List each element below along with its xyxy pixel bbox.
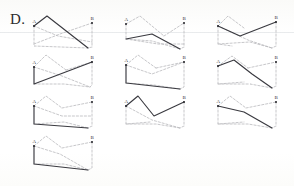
- panel-svg-4: AB: [30, 54, 98, 94]
- diagram-panel: AB: [122, 14, 190, 54]
- node-label-a: A: [125, 17, 129, 22]
- node-marker-a: [125, 105, 127, 107]
- node-marker-b: [275, 61, 277, 63]
- panel-svg-7: AB: [30, 94, 98, 134]
- dashed-route-2: [248, 62, 276, 68]
- node-marker-b: [91, 22, 93, 24]
- node-label-b: B: [275, 15, 279, 20]
- dashed-route-3: [88, 23, 92, 48]
- dashed-route-4: [218, 124, 272, 128]
- dashed-route-2: [246, 102, 276, 108]
- node-marker-a: [33, 145, 35, 147]
- node-label-b: B: [183, 55, 187, 60]
- dashed-route-4: [272, 22, 276, 48]
- node-label-a: A: [125, 58, 129, 63]
- solid-route: [218, 106, 272, 128]
- dashed-route-5: [90, 62, 92, 87]
- node-label-b: B: [183, 95, 187, 100]
- dashed-route-1: [218, 96, 246, 108]
- node-marker-b: [183, 61, 185, 63]
- dashed-route-1: [218, 16, 244, 28]
- solid-route: [34, 62, 92, 84]
- panel-svg-5: AB: [122, 54, 190, 94]
- dashed-route-3: [164, 23, 184, 36]
- diagram-panel: AB: [30, 54, 98, 94]
- solid-route: [34, 146, 88, 170]
- diagram-panel: AB: [214, 14, 282, 54]
- diagram-panel: AB: [122, 94, 190, 134]
- panel-svg-3: AB: [214, 14, 282, 54]
- dashed-route-1: [34, 136, 62, 148]
- node-label-b: B: [183, 16, 187, 21]
- node-label-a: A: [33, 60, 37, 65]
- diagram-panel: AB: [214, 54, 282, 94]
- node-label-a: A: [217, 59, 221, 64]
- dashed-route-2: [62, 102, 92, 108]
- solid-route: [126, 34, 180, 49]
- panel-svg-10: AB: [30, 134, 98, 174]
- node-marker-a: [217, 105, 219, 107]
- node-label-a: A: [125, 99, 129, 104]
- dashed-route-3: [218, 66, 244, 84]
- dashed-route-3: [34, 146, 88, 170]
- dashed-route-1: [126, 55, 156, 68]
- node-marker-a: [125, 23, 127, 25]
- node-label-b: B: [91, 16, 95, 21]
- diagram-panel: AB: [30, 134, 98, 174]
- dashed-route-5: [180, 23, 184, 49]
- dashed-route-4: [180, 102, 184, 128]
- node-label-b: B: [91, 135, 95, 140]
- dashed-route-1: [126, 106, 150, 124]
- node-label-a: A: [33, 139, 37, 144]
- node-marker-b: [183, 101, 185, 103]
- node-marker-a: [125, 64, 127, 66]
- diagram-panel: AB: [30, 14, 98, 54]
- dashed-route-4: [34, 84, 90, 87]
- dashed-route-1: [218, 56, 248, 68]
- node-marker-a: [217, 65, 219, 67]
- solid-route: [218, 22, 276, 36]
- dashed-route-4: [218, 84, 272, 88]
- dashed-route-1: [34, 96, 62, 108]
- panel-svg-6: AB: [214, 54, 282, 94]
- panel-svg-8: AB: [122, 94, 190, 134]
- dashed-route-1: [126, 16, 164, 36]
- dashed-route-5: [272, 62, 276, 88]
- node-marker-a: [33, 105, 35, 107]
- figure-label: D.: [10, 12, 26, 27]
- dashed-route-2: [34, 23, 92, 44]
- solid-route: [126, 96, 184, 116]
- node-label-a: A: [33, 19, 37, 24]
- diagram-panel: AB: [122, 54, 190, 94]
- dashed-route-5: [180, 62, 184, 89]
- node-marker-a: [217, 25, 219, 27]
- node-marker-b: [183, 22, 185, 24]
- node-marker-a: [33, 25, 35, 27]
- node-label-b: B: [91, 95, 95, 100]
- dashed-route-5: [88, 102, 92, 128]
- node-marker-b: [91, 141, 93, 143]
- dashed-route-1: [34, 55, 66, 70]
- panel-svg-2: AB: [122, 14, 190, 54]
- dashed-route-3: [126, 106, 180, 128]
- panel-svg-1: AB: [30, 14, 98, 54]
- node-label-b: B: [91, 55, 95, 60]
- node-marker-b: [91, 61, 93, 63]
- dashed-route-2: [156, 62, 184, 68]
- node-label-b: B: [275, 95, 279, 100]
- node-marker-b: [275, 21, 277, 23]
- solid-route: [126, 65, 180, 89]
- dashed-route-5: [88, 142, 92, 170]
- node-marker-b: [91, 101, 93, 103]
- diagram-panel: AB: [214, 94, 282, 134]
- node-label-b: B: [275, 55, 279, 60]
- node-marker-b: [275, 101, 277, 103]
- dashed-route-2: [62, 142, 92, 148]
- node-label-a: A: [217, 19, 221, 24]
- diagram-panel: AB: [30, 94, 98, 134]
- solid-route: [34, 16, 88, 48]
- dashed-route-5: [272, 102, 276, 128]
- node-label-a: A: [33, 99, 37, 104]
- node-label-a: A: [217, 99, 221, 104]
- panel-svg-9: AB: [214, 94, 282, 134]
